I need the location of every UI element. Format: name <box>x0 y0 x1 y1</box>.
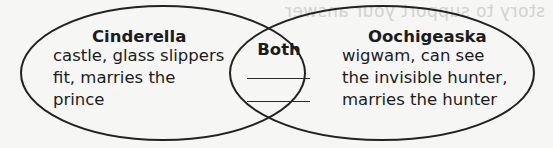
left-detail-line: castle, glass slippers <box>53 45 224 67</box>
right-detail-line: marries the hunter <box>342 89 507 111</box>
left-set-details: castle, glass slippers fit, marries the … <box>53 45 224 111</box>
intersection-title: Both <box>254 40 304 59</box>
left-detail-line: prince <box>53 89 224 111</box>
left-set-title: Cinderella <box>92 27 182 46</box>
right-set-title: Oochigeaska <box>368 27 478 46</box>
right-set-details: wigwam, can see the invisible hunter, ma… <box>342 45 507 111</box>
intersection-blank-2[interactable] <box>247 101 310 102</box>
intersection-blank-1[interactable] <box>247 78 310 79</box>
left-detail-line: fit, marries the <box>53 67 224 89</box>
venn-diagram: story to support your answer Cinderella … <box>0 0 553 148</box>
right-detail-line: the invisible hunter, <box>342 67 507 89</box>
right-detail-line: wigwam, can see <box>342 45 507 67</box>
